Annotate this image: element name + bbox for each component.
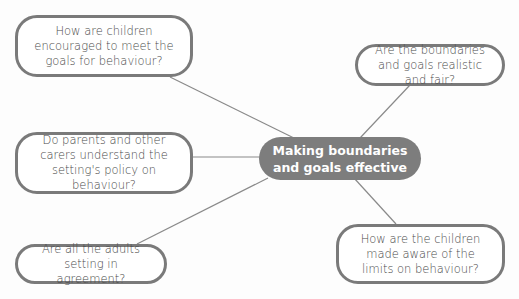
node-label: How are the children made aware of the l… bbox=[353, 232, 488, 277]
node-label: Are all the adults setting in agreement? bbox=[32, 242, 150, 287]
central-topic: Making boundaries and goals effective bbox=[259, 137, 421, 180]
node-label: Are the boundaries and goals realistic a… bbox=[370, 43, 490, 88]
node-label: How are children encouraged to meet the … bbox=[28, 24, 180, 69]
node-top-left: How are children encouraged to meet the … bbox=[15, 15, 193, 77]
connector-bottom-right bbox=[354, 178, 396, 224]
node-top-right: Are the boundaries and goals realistic a… bbox=[355, 44, 505, 86]
node-middle-left: Do parents and other carers understand t… bbox=[15, 132, 193, 194]
connector-top-right bbox=[360, 85, 410, 138]
connector-top-left bbox=[170, 77, 298, 140]
node-bottom-left: Are all the adults setting in agreement? bbox=[15, 244, 167, 284]
central-topic-label: Making boundaries and goals effective bbox=[267, 142, 413, 176]
node-label: Do parents and other carers understand t… bbox=[32, 133, 176, 193]
node-bottom-right: How are the children made aware of the l… bbox=[336, 224, 505, 284]
